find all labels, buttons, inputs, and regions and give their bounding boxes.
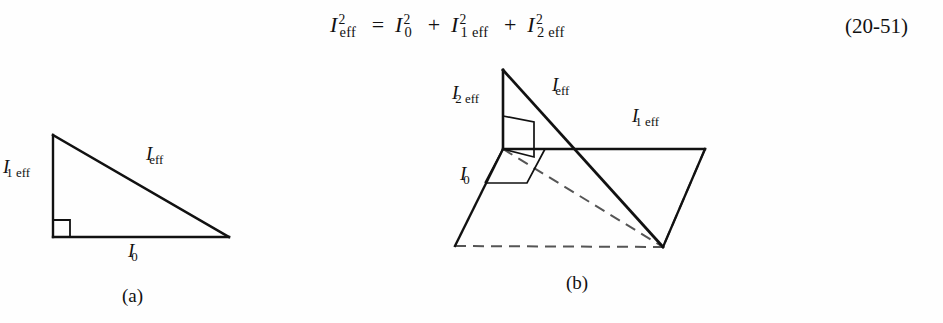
- equation-operator-1: +: [499, 12, 522, 37]
- equation-relation: =: [367, 12, 390, 37]
- equation-lhs: I2eff: [330, 12, 361, 38]
- label-i2eff-b: I2 eff: [452, 82, 482, 104]
- figure-b-hidden-diagonal-edge: [503, 149, 663, 247]
- label-ieff-b: Ieff: [552, 74, 572, 96]
- figure-b-hidden-base-edge: [455, 246, 663, 247]
- equation-expression: I2eff = I20 + I21 eff + I22 eff: [330, 12, 570, 38]
- label-i1eff-b: I1 eff: [632, 105, 662, 127]
- equation-term-1: I21 eff: [451, 12, 493, 38]
- figure-b-caption: (b): [566, 272, 588, 294]
- label-i0-b: I0: [460, 163, 473, 185]
- right-angle-marker-icon: [53, 220, 70, 237]
- equation-term-2: I22 eff: [527, 12, 569, 38]
- figure-a-drawing: [0, 60, 300, 323]
- figure-a: I1 eff Ieff I0: [0, 60, 300, 323]
- equation-number: (20-51): [845, 14, 908, 39]
- right-angle-marker-upper-icon: [503, 116, 534, 157]
- figure-b: I2 eff Ieff I1 eff I0: [400, 50, 800, 323]
- label-ieff-a: Ieff: [146, 143, 166, 165]
- equation-operator-0: +: [423, 12, 446, 37]
- label-i0-a: I0: [128, 240, 141, 262]
- triangle-a-hypotenuse: [53, 135, 229, 237]
- equation-term-0: I20: [395, 12, 417, 38]
- figure-a-caption: (a): [122, 285, 143, 307]
- label-i1eff-a: I1 eff: [3, 156, 33, 178]
- figure-b-resultant-diagonal: [503, 70, 663, 247]
- right-angle-marker-lower-edge-icon: [485, 149, 503, 183]
- figure-b-right-slant-edge: [663, 149, 705, 247]
- figure-page: I2eff = I20 + I21 eff + I22 eff (20-51) …: [0, 0, 943, 323]
